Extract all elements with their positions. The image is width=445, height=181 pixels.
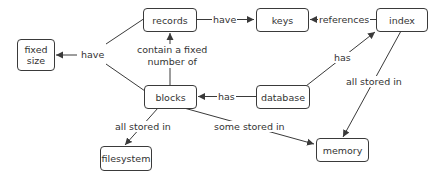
node-memory-label: memory: [323, 145, 363, 156]
node-records[interactable]: records: [143, 8, 197, 32]
edge-blocks-to-have: [106, 64, 145, 91]
label-blocks-stored-filesystem: all stored in: [114, 121, 172, 132]
node-fixed-size-line1: fixed: [24, 44, 47, 55]
node-fixed-size-line2: size: [27, 55, 45, 66]
node-records-label: records: [152, 15, 187, 26]
label-index-references-keys: references: [318, 14, 370, 25]
node-memory[interactable]: memory: [316, 138, 369, 162]
node-blocks-label: blocks: [155, 92, 185, 103]
label-blocks-some-stored-memory: some stored in: [213, 121, 286, 132]
label-blocks-contain-records: contain a fixed number of: [136, 44, 208, 68]
node-fixed-size[interactable]: fixed size: [17, 39, 55, 71]
node-filesystem-label: filesystem: [102, 153, 151, 164]
node-keys[interactable]: keys: [256, 8, 309, 32]
edge-records-to-have: [106, 18, 145, 44]
node-filesystem[interactable]: filesystem: [100, 146, 152, 171]
label-blocks-have-fixed-size: have: [80, 49, 105, 60]
node-index-label: index: [389, 15, 415, 26]
label-index-stored-memory: all stored in: [345, 76, 403, 87]
label-records-have-keys: have: [212, 14, 237, 25]
node-database-label: database: [261, 92, 305, 103]
node-index[interactable]: index: [376, 8, 428, 32]
label-database-has-blocks: has: [217, 91, 236, 102]
node-database[interactable]: database: [256, 85, 310, 109]
label-database-has-index: has: [333, 52, 352, 63]
label-contain-line1: contain a fixed: [137, 44, 207, 56]
node-blocks[interactable]: blocks: [144, 85, 197, 109]
label-contain-line2: number of: [137, 56, 207, 68]
node-keys-label: keys: [272, 15, 294, 26]
